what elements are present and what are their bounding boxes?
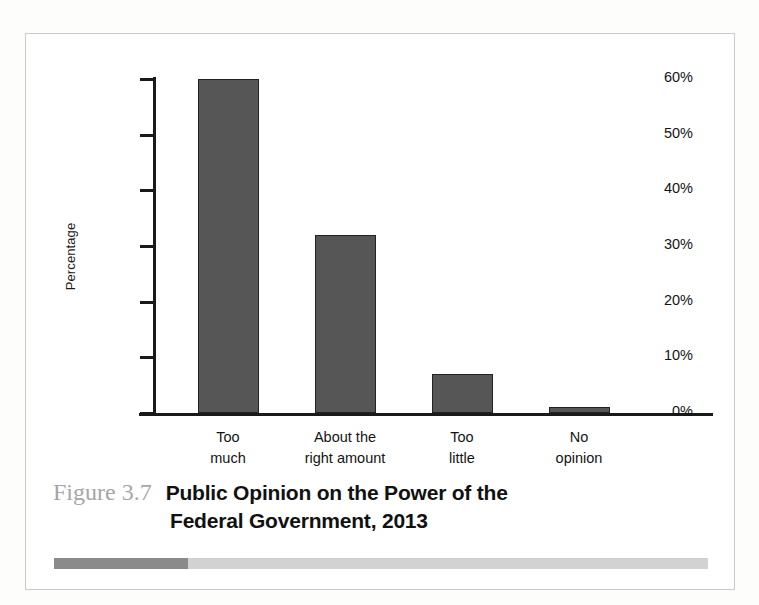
y-axis-tick [140,245,154,248]
y-axis-tick-label: 0% [623,403,693,419]
y-axis-tick-label: 60% [623,69,693,85]
bar [549,407,610,413]
y-axis-tick [140,134,154,137]
figure-number: Figure 3.7 [53,479,152,506]
y-axis-tick-label: 30% [623,236,693,252]
x-axis-tick-label: Noopinion [504,427,654,469]
x-axis-tick-label-line: No [504,427,654,448]
caption-rule-bar-accent [54,558,188,569]
figure-title-line-1: Public Opinion on the Power of the [166,479,508,507]
x-axis-tick-label-line: opinion [504,448,654,469]
y-axis-tick-label: 40% [623,180,693,196]
y-axis-tick [140,301,154,304]
y-axis-tick [140,356,154,359]
bar [432,374,493,413]
y-axis-tick-label: 10% [623,347,693,363]
plot-area: 0%10%20%30%40%50%60% ToomuchAbout therig… [153,79,713,413]
figure-page: Percentage 0%10%20%30%40%50%60% ToomuchA… [0,0,759,605]
y-axis-tick-label: 50% [623,125,693,141]
figure-caption: Figure 3.7 Public Opinion on the Power o… [53,479,713,535]
y-axis-tick [140,189,154,192]
bar [198,79,259,413]
y-axis-tick [140,412,154,415]
bar [315,235,376,413]
y-axis-tick-label: 20% [623,292,693,308]
y-axis-tick [140,78,154,81]
caption-first-row: Figure 3.7 Public Opinion on the Power o… [53,479,713,507]
caption-rule-bar [54,558,708,569]
y-axis-title: Percentage [63,197,78,317]
figure-frame: Percentage 0%10%20%30%40%50%60% ToomuchA… [25,33,735,590]
chart-area: Percentage 0%10%20%30%40%50%60% ToomuchA… [26,34,736,474]
figure-title-line-2: Federal Government, 2013 [170,507,713,535]
